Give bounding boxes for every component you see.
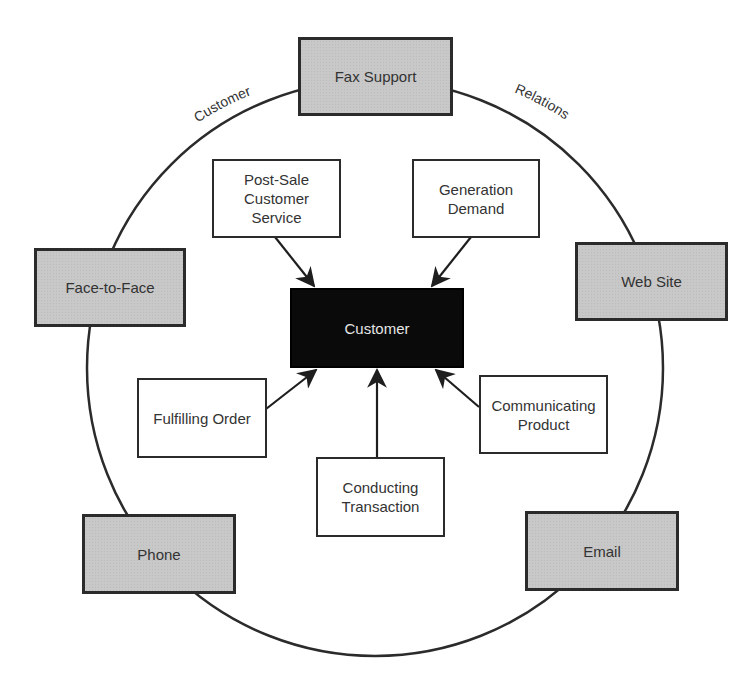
channel-label: Phone bbox=[137, 545, 180, 564]
customer-relations-diagram: Customer Relations Fax Support Face-to-F… bbox=[0, 0, 754, 679]
channel-label: Fax Support bbox=[335, 67, 417, 86]
channel-email: Email bbox=[525, 511, 679, 591]
arrow-postsale-to-customer bbox=[275, 237, 314, 286]
activity-fulfilling-order: Fulfilling Order bbox=[137, 378, 267, 458]
arrow-communicate-to-customer bbox=[436, 370, 479, 407]
channel-label: Web Site bbox=[621, 272, 682, 291]
activity-conducting-transaction: Conducting Transaction bbox=[316, 457, 445, 537]
activity-communicating-product: Communicating Product bbox=[479, 375, 608, 454]
activity-label: Post-Sale Customer Service bbox=[244, 170, 309, 227]
ring-label-relations: Relations bbox=[513, 80, 573, 122]
activity-label: Fulfilling Order bbox=[153, 409, 251, 428]
activity-label: Communicating Product bbox=[491, 396, 595, 434]
channel-label: Face-to-Face bbox=[65, 278, 154, 297]
channel-phone: Phone bbox=[82, 514, 236, 594]
ring-label-customer: Customer bbox=[191, 83, 253, 126]
activity-post-sale-customer-service: Post-Sale Customer Service bbox=[212, 159, 341, 238]
activity-label: Conducting Transaction bbox=[342, 478, 420, 516]
channel-face-to-face: Face-to-Face bbox=[34, 248, 186, 327]
channel-web-site: Web Site bbox=[575, 242, 728, 321]
customer-core-box: Customer bbox=[290, 288, 464, 368]
activity-generation-demand: Generation Demand bbox=[412, 159, 540, 238]
activity-label: Generation Demand bbox=[439, 180, 513, 218]
channel-fax-support: Fax Support bbox=[298, 37, 453, 116]
arrow-demand-to-customer bbox=[432, 237, 471, 286]
customer-core-label: Customer bbox=[344, 319, 409, 338]
channel-label: Email bbox=[583, 542, 621, 561]
arrow-fulfill-to-customer bbox=[266, 370, 316, 409]
